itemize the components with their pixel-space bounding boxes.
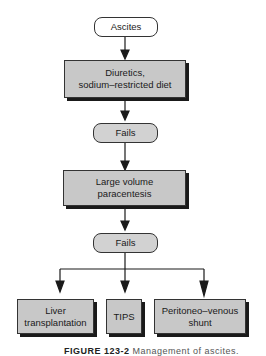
liver-label-line2: transplantation (24, 317, 86, 329)
peritoneovenous-shunt-node: Peritoneo–venous shunt (154, 299, 246, 334)
fails-node-2: Fails (93, 233, 158, 253)
fails-label-2: Fails (115, 237, 135, 249)
fails-label-1: Fails (115, 127, 135, 139)
figure-caption: FIGURE 123-2 Management of ascites. (64, 346, 239, 356)
ascites-node: Ascites (94, 17, 158, 37)
paracentesis-label-line2: paracentesis (98, 188, 152, 200)
diuretics-label-line2: sodium–restricted diet (79, 79, 172, 91)
liver-transplantation-node: Liver transplantation (17, 299, 94, 334)
liver-label-line1: Liver (45, 305, 66, 317)
diuretics-node: Diuretics, sodium–restricted diet (64, 60, 186, 98)
ascites-label: Ascites (111, 21, 142, 33)
tips-label: TIPS (113, 311, 134, 323)
paracentesis-node: Large volume paracentesis (63, 170, 186, 206)
figure-label: FIGURE 123-2 (64, 346, 130, 356)
figure-caption-text: Management of ascites. (133, 346, 240, 356)
tips-node: TIPS (106, 299, 142, 334)
fails-node-1: Fails (93, 123, 158, 143)
shunt-label-line2: shunt (188, 317, 211, 329)
paracentesis-label-line1: Large volume (96, 176, 154, 188)
diuretics-label-line1: Diuretics, (105, 67, 145, 79)
shunt-label-line1: Peritoneo–venous (162, 305, 239, 317)
